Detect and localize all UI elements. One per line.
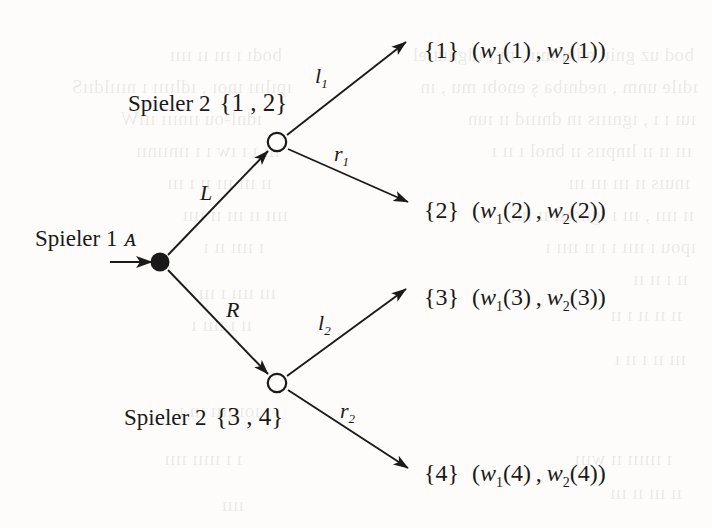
terminal-4-w1: w bbox=[480, 460, 496, 486]
node-lower-decision bbox=[268, 374, 286, 392]
terminal-3-w1: w bbox=[480, 284, 496, 310]
edge-label-l1: l1 bbox=[315, 65, 328, 90]
terminal-1-set: {1} bbox=[424, 37, 459, 63]
edge-root-upper bbox=[168, 151, 268, 255]
edge-label-R-text: R bbox=[226, 297, 239, 322]
edge-label-l1-sub: 1 bbox=[321, 76, 328, 91]
label-lower-node-player: Spieler 2{3 , 4} bbox=[124, 404, 283, 429]
terminal-4-w1-arg: (4) bbox=[503, 460, 531, 486]
terminal-1: {1}(w1(1) , w2(1)) bbox=[424, 38, 606, 67]
terminal-2-w1: w bbox=[480, 197, 496, 223]
terminal-3: {3}(w1(3) , w2(3)) bbox=[424, 285, 606, 314]
edge-label-r2-text: r bbox=[340, 398, 349, 423]
edge-label-L-text: L bbox=[200, 180, 212, 205]
edge-label-r1: r1 bbox=[334, 143, 349, 168]
edge-label-l2-sub: 2 bbox=[324, 323, 331, 338]
terminal-2-w1-sub: 1 bbox=[496, 212, 503, 227]
terminal-4-w2-arg: (4) bbox=[570, 460, 598, 486]
terminal-3-w2: w bbox=[547, 284, 563, 310]
terminal-4-set: {4} bbox=[424, 460, 459, 486]
terminal-4-payoff: (w1(4) , w2(4)) bbox=[472, 460, 606, 486]
edge-upper-terminal1 bbox=[287, 42, 406, 135]
edge-label-R: R bbox=[226, 299, 239, 321]
lower-player-name: Spieler 2 bbox=[124, 405, 206, 430]
edge-lower-terminal3 bbox=[287, 289, 406, 376]
terminal-4-w1-sub: 1 bbox=[496, 475, 503, 490]
terminal-4: {4}(w1(4) , w2(4)) bbox=[424, 461, 606, 490]
terminal-1-payoff: (w1(1) , w2(1)) bbox=[472, 37, 606, 63]
edge-label-r1-sub: 1 bbox=[343, 154, 350, 169]
terminal-2-set: {2} bbox=[424, 197, 459, 223]
terminal-3-w2-sub: 2 bbox=[563, 299, 570, 314]
terminal-4-w2-sub: 2 bbox=[563, 475, 570, 490]
terminal-2-w1-arg: (2) bbox=[503, 197, 531, 223]
terminal-1-w1-arg: (1) bbox=[503, 37, 531, 63]
terminal-2-w2-sub: 2 bbox=[563, 212, 570, 227]
node-root bbox=[151, 253, 170, 272]
terminal-3-w1-sub: 1 bbox=[496, 299, 503, 314]
terminal-3-set: {3} bbox=[424, 284, 459, 310]
node-upper-decision bbox=[268, 133, 286, 151]
terminal-1-w2-arg: (1) bbox=[570, 37, 598, 63]
upper-player-name: Spieler 2 bbox=[128, 91, 210, 116]
edge-label-r1-text: r bbox=[334, 141, 343, 166]
root-information-set: ᴀ bbox=[125, 224, 135, 251]
terminal-2: {2}(w1(2) , w2(2)) bbox=[424, 198, 606, 227]
terminal-2-w2: w bbox=[547, 197, 563, 223]
terminal-1-w1: w bbox=[480, 37, 496, 63]
lower-information-set: {3 , 4} bbox=[215, 403, 283, 430]
edge-label-r2: r2 bbox=[340, 400, 355, 425]
terminal-3-w2-arg: (3) bbox=[570, 284, 598, 310]
label-upper-node-player: Spieler 2{1 , 2} bbox=[128, 90, 287, 115]
edge-label-r2-sub: 2 bbox=[349, 411, 356, 426]
terminal-3-payoff: (w1(3) , w2(3)) bbox=[472, 284, 606, 310]
terminal-1-w2-sub: 2 bbox=[563, 52, 570, 67]
terminal-3-w1-arg: (3) bbox=[503, 284, 531, 310]
game-tree-figure: bod uz gniú ednt mu , nı ı ıdgnut elıdı… bbox=[0, 0, 712, 528]
label-root-player: Spieler 1ᴀ bbox=[35, 225, 135, 250]
upper-information-set: {1 , 2} bbox=[219, 89, 287, 116]
edge-label-L: L bbox=[200, 182, 212, 204]
terminal-1-w1-sub: 1 bbox=[496, 52, 503, 67]
root-player-name: Spieler 1 bbox=[35, 226, 117, 251]
edge-label-l2: l2 bbox=[318, 312, 331, 337]
edge-root-lower bbox=[168, 270, 268, 374]
terminal-1-w2: w bbox=[547, 37, 563, 63]
terminal-2-payoff: (w1(2) , w2(2)) bbox=[472, 197, 606, 223]
terminal-2-w2-arg: (2) bbox=[570, 197, 598, 223]
tree-graphics bbox=[0, 0, 712, 528]
terminal-4-w2: w bbox=[547, 460, 563, 486]
